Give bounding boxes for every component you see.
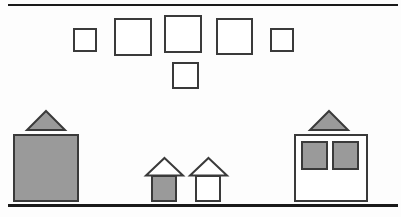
window-right (332, 141, 359, 170)
small-house-filled-body (151, 175, 177, 202)
large-house-body (13, 134, 79, 202)
bottom-horizontal-rule (8, 204, 398, 207)
square-2 (114, 18, 152, 56)
small-house-outline-roof-triangle (189, 157, 228, 177)
diagram-canvas (0, 0, 401, 217)
small-house-outline-body (195, 175, 221, 202)
square-5 (270, 28, 294, 52)
square-3 (164, 15, 202, 53)
square-6 (172, 62, 199, 89)
square-1 (73, 28, 97, 52)
square-4 (216, 18, 253, 55)
top-horizontal-rule (8, 4, 398, 6)
small-house-filled-roof-triangle (145, 157, 184, 177)
large-house-roof-triangle (26, 110, 66, 131)
window-left (301, 141, 328, 170)
windowed-house-roof-triangle (309, 110, 349, 131)
